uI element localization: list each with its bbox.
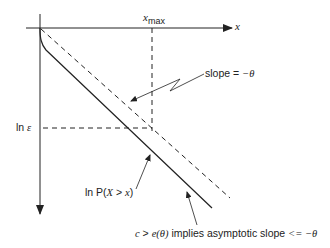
slope-reference-line (41, 29, 230, 198)
ln-tail-probability-curve (40, 28, 212, 208)
ln-p-prefix: ln P( (85, 186, 107, 198)
ln-p-middle: > (113, 186, 125, 198)
asym-le: <= −θ (288, 228, 317, 239)
x-max-subscript: max (148, 16, 165, 26)
asym-theta: (θ) (156, 228, 168, 239)
asymptotic-slope-label: c > e(θ) implies asymptotic slope <= −θ (135, 228, 317, 240)
diagram-canvas: x xmax ln ε slope = −θ ln P(X > x) c > e… (0, 0, 330, 248)
ln-epsilon-label: ln ε (16, 122, 31, 134)
ln-p-label: ln P(X > x) (85, 187, 133, 199)
slope-prefix: slope = (205, 67, 242, 79)
slope-label: slope = −θ (205, 68, 254, 80)
asym-gt: > (140, 227, 152, 239)
ln-p-suffix: ) (130, 186, 134, 198)
epsilon-symbol: ε (27, 122, 31, 133)
diagram-svg (0, 0, 330, 248)
x-axis-label: x (235, 21, 240, 32)
asymptotic-pointer (187, 192, 197, 225)
ln-epsilon-prefix: ln (16, 121, 27, 133)
x-max-label: xmax (143, 12, 165, 23)
asym-text: implies asymptotic slope (168, 227, 288, 239)
slope-pointer (131, 74, 204, 101)
slope-value: −θ (242, 68, 254, 79)
ln-p-pointer (136, 155, 150, 189)
